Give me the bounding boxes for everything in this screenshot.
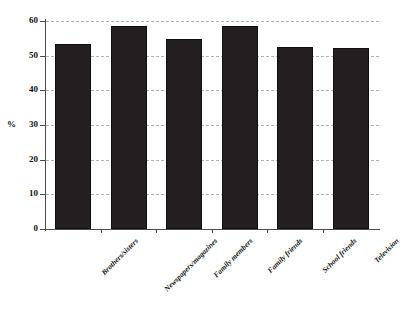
bar	[55, 44, 91, 229]
plot-area	[46, 21, 379, 229]
gridline	[46, 56, 379, 57]
x-tick-label: Family friends	[266, 237, 304, 275]
x-tick-label: Newspapers/magazines	[162, 237, 218, 293]
y-tick-mark	[40, 229, 46, 230]
y-tick-label: 30	[8, 120, 38, 129]
x-tick-mark	[323, 229, 324, 233]
x-tick-mark	[212, 229, 213, 233]
gridline	[46, 125, 379, 126]
y-tick-label: 40	[8, 85, 38, 94]
x-tick-mark	[101, 229, 102, 233]
gridline	[46, 160, 379, 161]
gridline	[46, 21, 379, 22]
y-tick-label: 0	[8, 224, 38, 233]
bar	[111, 26, 147, 229]
x-tick-mark	[267, 229, 268, 233]
gridline	[46, 194, 379, 195]
x-tick-mark	[156, 229, 157, 233]
y-tick-label: 20	[8, 155, 38, 164]
y-tick-label: 10	[8, 189, 38, 198]
x-tick-label: School friends	[321, 237, 358, 274]
gridline	[46, 90, 379, 91]
y-tick-label: 50	[8, 51, 38, 60]
bar	[333, 48, 369, 229]
y-tick-label: 60	[8, 16, 38, 25]
bar	[166, 39, 202, 229]
x-tick-label: Brothers/sisters	[100, 237, 139, 276]
bar	[222, 26, 258, 229]
x-tick-label: Television	[373, 237, 400, 264]
bar	[277, 47, 313, 229]
